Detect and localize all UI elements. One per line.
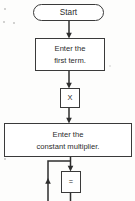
flowchart-page: Start Enter the first term. X Enter the …	[0, 0, 135, 201]
connector-start-to-first-term	[66, 21, 72, 39]
connector-multiply-key-to-constant	[66, 108, 72, 124]
enter-constant-multiplier-label-line1: Enter the	[53, 130, 84, 139]
multiply-key-label: X	[68, 93, 73, 102]
enter-constant-multiplier-shape	[5, 124, 132, 157]
start-label: Start	[60, 8, 78, 17]
equals-key-label: =	[69, 177, 73, 186]
node-equals-key[interactable]: =	[62, 172, 81, 193]
flowchart-canvas: Start Enter the first term. X Enter the …	[0, 0, 135, 201]
node-multiply-key[interactable]: X	[61, 89, 80, 108]
node-enter-first-term[interactable]: Enter the first term.	[36, 39, 105, 71]
enter-first-term-label-line2: first term.	[54, 56, 86, 65]
enter-first-term-label-line1: Enter the	[55, 44, 86, 53]
connector-constant-to-equals-key	[68, 157, 74, 172]
connector-first-term-to-multiply-key	[66, 71, 72, 89]
node-enter-constant-multiplier[interactable]: Enter the constant multiplier.	[5, 124, 132, 157]
node-start[interactable]: Start	[34, 5, 104, 21]
enter-constant-multiplier-label-line2: constant multiplier.	[37, 142, 100, 151]
